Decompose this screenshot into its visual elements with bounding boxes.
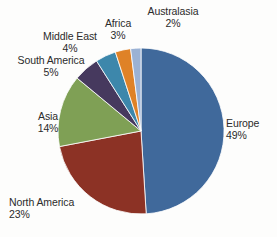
slice-label-middle-east-value: 4% <box>34 42 106 54</box>
slice-label-north-america-value: 23% <box>9 208 74 220</box>
slice-label-europe-value: 49% <box>226 129 259 141</box>
slice-label-australasia-value: 2% <box>140 17 206 29</box>
slice-label-north-america-name: North America <box>9 196 74 208</box>
slice-label-north-america: North America 23% <box>9 196 74 220</box>
slice-label-asia: Asia 14% <box>28 110 68 134</box>
pie-slice-europe <box>141 48 224 214</box>
slice-label-asia-name: Asia <box>28 110 68 122</box>
slice-label-middle-east: Middle East 4% <box>34 30 106 54</box>
slice-label-australasia-name: Australasia <box>140 5 206 17</box>
slice-label-south-america: South America 5% <box>10 54 92 78</box>
slice-label-africa-name: Africa <box>100 17 136 29</box>
slice-label-africa-value: 3% <box>100 29 136 41</box>
slice-label-middle-east-name: Middle East <box>34 30 106 42</box>
slice-label-europe-name: Europe <box>226 117 259 129</box>
slice-label-asia-value: 14% <box>28 122 68 134</box>
slice-label-south-america-value: 5% <box>10 66 92 78</box>
slice-label-europe: Europe 49% <box>226 117 259 141</box>
chart-area: Europe 49% North America 23% Asia 14% So… <box>0 0 277 237</box>
slice-label-africa: Africa 3% <box>100 17 136 41</box>
slice-label-australasia: Australasia 2% <box>140 5 206 29</box>
slice-label-south-america-name: South America <box>10 54 92 66</box>
pie-chart-figure: Europe 49% North America 23% Asia 14% So… <box>0 0 277 237</box>
